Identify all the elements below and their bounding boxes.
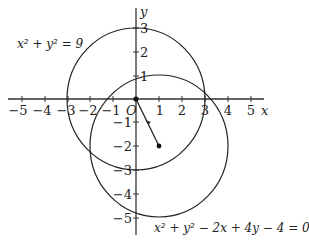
- x-tick-label: 2: [178, 103, 186, 118]
- x-tick-label: 5: [247, 103, 255, 118]
- center-point: [157, 144, 162, 149]
- circle1-equation-label: x² + y² = 9: [17, 37, 84, 51]
- arrow-icon: [146, 120, 151, 125]
- circle2-equation-label: x² + y² − 2x + 4y − 4 = 0: [154, 221, 309, 235]
- x-tick-label: −3: [56, 103, 75, 118]
- y-tick-label: 2: [140, 45, 148, 60]
- y-axis-label: y: [139, 4, 148, 19]
- y-tick-label: −4: [113, 187, 132, 202]
- y-tick-label: −1: [113, 115, 132, 130]
- y-tick-label: 3: [140, 21, 148, 36]
- x-tick-label: −5: [8, 103, 27, 118]
- y-tick-label: 1: [140, 69, 148, 84]
- y-tick-label: −5: [113, 211, 132, 226]
- x-tick-label: −4: [32, 103, 51, 118]
- origin-point: [133, 96, 138, 101]
- y-tick-label: −2: [113, 139, 132, 154]
- x-tick-label: 3: [201, 103, 209, 118]
- y-tick-label: −3: [113, 163, 132, 178]
- x-axis-label: x: [261, 103, 269, 118]
- x-tick-label: −2: [78, 103, 97, 118]
- x-tick-label: 1: [156, 103, 164, 118]
- y-tick-labels: 3 2 1 −1 −2 −3 −4 −5: [113, 21, 148, 226]
- x-tick-label: 4: [224, 103, 232, 118]
- coordinate-diagram: −5 −4 −3 −2 −1 1 2 3 4 5 x O 3 2 1 −1 −2…: [0, 0, 309, 243]
